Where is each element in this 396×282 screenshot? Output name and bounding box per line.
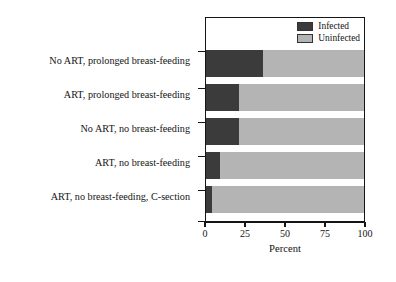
legend-swatch-infected [297,22,313,31]
y-axis-tick [198,88,205,89]
y-axis-tick [198,51,205,52]
bar-row [206,152,364,179]
category-label: ART, prolonged breast-feeding [0,89,190,100]
x-axis-ticklabel: 75 [310,228,340,239]
legend-swatch-uninfected [297,34,313,43]
x-axis-ticklabel: 25 [230,228,260,239]
x-axis-tick [244,222,245,227]
bar-row [206,50,364,77]
category-label: ART, no breast-feeding [0,157,190,168]
x-axis-ticklabel: 0 [190,228,220,239]
x-axis-tick [204,222,205,227]
bar-row [206,84,364,111]
bar-row [206,118,364,145]
x-axis-tick [324,222,325,227]
y-axis-tick [198,122,205,123]
x-axis-ticklabel: 100 [350,228,380,239]
plot-area: Infected Uninfected [205,17,365,222]
bar-segment-uninfected [239,84,364,111]
bar-segment-uninfected [239,118,364,145]
category-label: ART, no breast-feeding, C-section [0,191,190,202]
bar-segment-uninfected [212,186,364,213]
legend-item-infected: Infected [297,21,360,31]
bar-segment-uninfected [263,50,364,77]
chart-figure: No ART, prolonged breast-feeding ART, pr… [0,0,396,282]
x-axis-ticklabel: 50 [270,228,300,239]
plot-inner [206,18,364,221]
x-axis-tick [364,222,365,227]
y-axis-category-labels: No ART, prolonged breast-feeding ART, pr… [0,15,198,238]
category-label: No ART, no breast-feeding [0,123,190,134]
y-axis-tick [198,156,205,157]
x-axis-tick [284,222,285,227]
x-axis-title: Percent [205,243,365,254]
bar-segment-infected [206,118,239,145]
chart-legend: Infected Uninfected [297,21,360,43]
legend-item-uninfected: Uninfected [297,33,360,43]
legend-label: Infected [318,21,349,31]
category-label: No ART, prolonged breast-feeding [0,55,190,66]
bar-segment-uninfected [220,152,364,179]
bar-segment-infected [206,152,220,179]
bar-segment-infected [206,84,239,111]
bar-row [206,186,364,213]
bar-segment-infected [206,50,263,77]
y-axis-tick [198,190,205,191]
legend-label: Uninfected [318,33,360,43]
